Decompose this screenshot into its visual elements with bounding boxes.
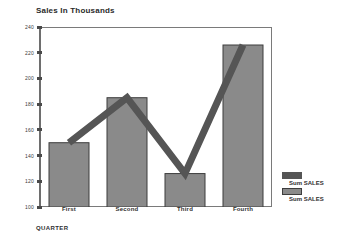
y-axis-tick-label: 120 <box>14 178 34 184</box>
y-axis-tick-label: 140 <box>14 153 34 159</box>
bar <box>49 143 89 207</box>
line-path <box>69 45 243 174</box>
legend-swatch <box>282 172 302 179</box>
y-axis-tick-label: 100 <box>14 204 34 210</box>
y-axis-tick-label: 220 <box>14 50 34 56</box>
y-axis-tick-label: 160 <box>14 127 34 133</box>
chart-title: Sales In Thousands <box>36 6 115 15</box>
y-axis-tick-label: 240 <box>14 24 34 30</box>
y-axis-tick-label: 180 <box>14 101 34 107</box>
legend-swatch <box>282 188 302 195</box>
legend-label: Sum SALES <box>289 196 324 202</box>
line-series <box>69 45 243 174</box>
plot-svg <box>40 27 272 207</box>
x-axis-title: QUARTER <box>36 225 68 231</box>
chart-container: Sales In Thousands 100120140160180200220… <box>0 0 351 244</box>
y-axis-tick-label: 200 <box>14 75 34 81</box>
legend-label: Sum SALES <box>289 180 324 186</box>
